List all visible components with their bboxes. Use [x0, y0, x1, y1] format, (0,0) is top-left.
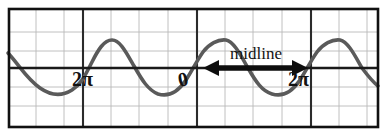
graph-canvas: 2π 0 2π midline	[0, 0, 387, 136]
sinusoid-midline-figure: 2π 0 2π midline	[0, 0, 387, 136]
axis-label-left-2pi: 2π	[72, 68, 93, 90]
axis-label-right-2pi: 2π	[288, 68, 309, 90]
midline-annotation-label: midline	[230, 44, 282, 63]
